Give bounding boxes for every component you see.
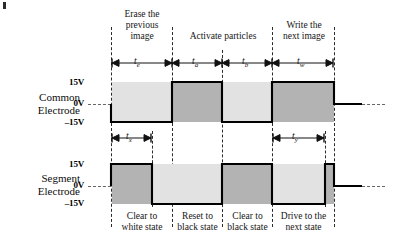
voltage-label-segment-zero: 0V bbox=[54, 180, 84, 190]
timing-label-tx: tx bbox=[126, 131, 132, 144]
bottom-caption-2: Reset to black state bbox=[173, 211, 222, 233]
phase-title-activate: Activate particles bbox=[176, 31, 270, 42]
bottom-caption-3-line1: Clear to bbox=[223, 211, 272, 222]
bottom-caption-3-line2: black state bbox=[223, 222, 272, 233]
voltage-label-segment-low: –15V bbox=[48, 198, 84, 208]
bottom-caption-2-line1: Reset to bbox=[173, 211, 222, 222]
timing-label-ta-sub: a bbox=[195, 61, 199, 69]
timing-label-tb-sub: b bbox=[245, 61, 249, 69]
bottom-caption-4: Drive to the next state bbox=[273, 211, 334, 233]
voltage-label-common-high: 15V bbox=[54, 77, 84, 87]
figure-canvas: Erase the previous image Activate partic… bbox=[0, 0, 394, 247]
timing-arrows-ty-svg bbox=[272, 133, 325, 143]
bottom-caption-1-line2: white state bbox=[112, 222, 172, 233]
timing-label-tb: tb bbox=[242, 56, 248, 69]
waveform-common-electrode bbox=[104, 74, 374, 132]
timing-label-ty-sub: y bbox=[295, 136, 298, 144]
timing-label-ty: ty bbox=[292, 131, 298, 144]
phase-title-activate-line1: Activate particles bbox=[176, 31, 270, 42]
bottom-caption-4-line1: Drive to the bbox=[273, 211, 334, 222]
phase-title-write-line2: next image bbox=[272, 31, 336, 42]
phase-title-erase-line1: Erase the bbox=[108, 9, 176, 20]
phase-title-erase-line3: image bbox=[108, 31, 176, 42]
bottom-caption-4-line2: next state bbox=[273, 222, 334, 233]
bottom-caption-1-line1: Clear to bbox=[112, 211, 172, 222]
voltage-label-common-zero: 0V bbox=[54, 98, 84, 108]
timing-arrow-row-ty bbox=[272, 133, 325, 143]
bottom-caption-1: Clear to white state bbox=[112, 211, 172, 233]
bottom-caption-3: Clear to black state bbox=[223, 211, 272, 233]
timing-label-tw: tw bbox=[297, 56, 304, 69]
bottom-caption-2-line2: black state bbox=[173, 222, 222, 233]
phase-title-erase: Erase the previous image bbox=[108, 9, 176, 42]
timing-label-te: te bbox=[134, 56, 140, 69]
phase-title-write-line1: Write the bbox=[272, 20, 336, 31]
voltage-label-common-low: –15V bbox=[48, 117, 84, 127]
timing-label-te-sub: e bbox=[137, 61, 140, 69]
corner-registration-mark bbox=[3, 2, 6, 9]
phase-title-write: Write the next image bbox=[272, 20, 336, 42]
timing-label-tw-sub: w bbox=[300, 61, 305, 69]
waveform-segment-electrode bbox=[104, 156, 374, 214]
phase-title-erase-line2: previous bbox=[108, 20, 176, 31]
timing-label-ta: ta bbox=[192, 56, 198, 69]
timing-label-tx-sub: x bbox=[129, 136, 132, 144]
voltage-label-segment-high: 15V bbox=[54, 159, 84, 169]
